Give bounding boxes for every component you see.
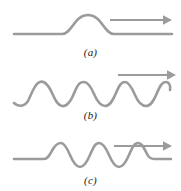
- wave-types-figure: (a) (b) (c): [0, 0, 181, 191]
- continuous-sinusoidal-wave-icon: [14, 82, 170, 106]
- propagation-arrow-b: [118, 70, 176, 80]
- panel-label-b: (b): [0, 110, 181, 121]
- propagation-arrow-a: [110, 15, 172, 25]
- panel-label-a: (a): [0, 47, 181, 58]
- panel-continuous-wave: (b): [0, 63, 181, 126]
- propagation-arrow-c: [114, 141, 172, 151]
- panel-label-c: (c): [0, 175, 181, 186]
- panel-wave-train: (c): [0, 126, 181, 191]
- single-pulse-wave-icon: [14, 15, 172, 34]
- panel-single-pulse: (a): [0, 0, 181, 63]
